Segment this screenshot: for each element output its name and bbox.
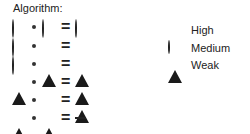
- page-title: Algorithm:: [13, 2, 63, 14]
- triangle-icon: [12, 75, 26, 89]
- equals-operator: =: [61, 19, 70, 35]
- triangle-icon: [42, 57, 56, 71]
- open-circle-icon: [12, 57, 26, 71]
- legend-label: High: [191, 24, 243, 36]
- rule-row: =: [12, 56, 89, 72]
- legend-item-weak: Weak1: [168, 57, 250, 73]
- filled-circle-icon: [42, 75, 56, 89]
- rule-row: =: [12, 74, 89, 90]
- equals-operator: =: [61, 92, 70, 108]
- legend-value: 9: [243, 24, 250, 36]
- multiply-operator: [32, 62, 36, 66]
- multiply-operator: [32, 98, 36, 102]
- triangle-icon: [12, 111, 26, 125]
- open-circle-icon: [12, 39, 26, 53]
- filled-circle-icon: [42, 39, 56, 53]
- equals-operator: =: [61, 56, 70, 72]
- open-circle-icon-shape: [42, 19, 44, 38]
- open-circle-icon-shape: [12, 56, 14, 75]
- open-circle-icon-shape: [168, 40, 170, 54]
- open-circle-icon: [168, 41, 182, 55]
- legend-value: 3: [243, 42, 250, 54]
- triangle-icon: [42, 111, 56, 125]
- rule-row: =: [12, 110, 89, 126]
- multiply-operator: [32, 44, 36, 48]
- multiply-operator: [32, 80, 36, 84]
- legend-label: Medium: [191, 42, 243, 54]
- filled-circle-icon: [42, 93, 56, 107]
- equals-operator: =: [61, 110, 70, 126]
- triangle-icon: [75, 57, 89, 71]
- open-circle-icon: [75, 20, 89, 34]
- open-circle-icon: [12, 20, 26, 34]
- open-circle-icon-shape: [75, 19, 77, 38]
- triangle-icon-shape: [42, 111, 56, 134]
- open-circle-icon-shape: [12, 38, 14, 57]
- equals-operator: =: [61, 38, 70, 54]
- legend-label: Weak: [191, 59, 243, 71]
- filled-circle-icon: [168, 23, 182, 37]
- multiply-operator: [32, 25, 36, 29]
- triangle-icon: [75, 93, 89, 107]
- multiply-operator: [32, 116, 36, 120]
- filled-circle-icon: [12, 93, 26, 107]
- triangle-icon: [168, 58, 182, 72]
- dash-icon-shape: [75, 117, 86, 120]
- legend-item-medium: Medium3: [168, 40, 250, 56]
- legend-value: 1: [243, 59, 250, 71]
- open-circle-icon-shape: [12, 19, 14, 38]
- triangle-icon-shape: [168, 58, 182, 83]
- triangle-icon-shape: [12, 111, 26, 134]
- dash-icon: [75, 111, 89, 125]
- equals-operator: =: [61, 74, 70, 90]
- rule-row: =: [12, 92, 89, 108]
- open-circle-icon: [42, 20, 56, 34]
- filled-circle-icon: [75, 39, 89, 53]
- legend-item-high: High9: [168, 22, 250, 38]
- rule-row: =: [12, 19, 89, 35]
- triangle-icon: [75, 75, 89, 89]
- rule-row: =: [12, 38, 89, 54]
